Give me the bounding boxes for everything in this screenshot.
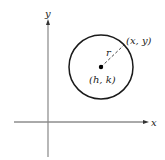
radius-line (101, 45, 124, 67)
x-axis-label: x (151, 117, 157, 128)
x-axis-arrow-icon (143, 120, 149, 124)
center-label: (h, k) (89, 74, 116, 85)
radius-label: r (106, 47, 112, 58)
circle-diagram: x y r (x, y) (h, k) (0, 0, 165, 160)
y-axis-arrow-icon (46, 19, 50, 25)
point-label: (x, y) (126, 35, 152, 46)
y-axis-label: y (44, 8, 51, 19)
center-point (99, 65, 103, 69)
